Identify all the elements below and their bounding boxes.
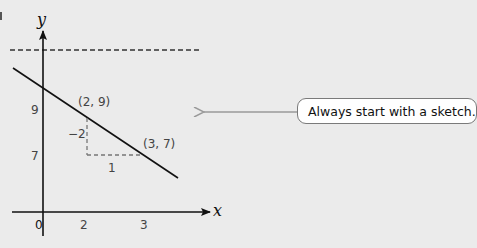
y-tick-9: 9 xyxy=(31,104,39,116)
y-tick-7: 7 xyxy=(31,150,39,162)
point-label-3-7: (3, 7) xyxy=(143,138,175,150)
point-label-2-9: (2, 9) xyxy=(78,96,110,108)
origin-label: 0 xyxy=(35,219,43,231)
rise-label: −2 xyxy=(68,128,86,140)
x-tick-2: 2 xyxy=(80,219,88,231)
run-label: 1 xyxy=(108,162,116,174)
x-tick-3: 3 xyxy=(140,219,148,231)
callout-box: Always start with a sketch. xyxy=(297,98,477,124)
callout-text: Always start with a sketch. xyxy=(308,104,476,119)
x-axis-label: x xyxy=(213,203,222,219)
y-axis-label: y xyxy=(37,12,46,28)
